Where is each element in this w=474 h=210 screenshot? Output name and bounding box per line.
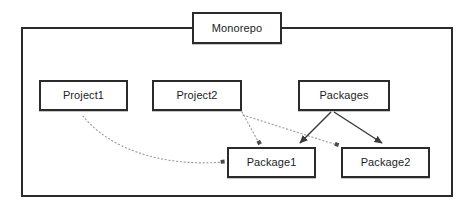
- node-monorepo[interactable]: Monorepo: [192, 12, 282, 44]
- node-packages[interactable]: Packages: [298, 80, 390, 111]
- node-package2-label: Package2: [361, 157, 411, 168]
- node-project2-label: Project2: [176, 90, 217, 101]
- node-package2[interactable]: Package2: [341, 147, 430, 178]
- node-package1-label: Package1: [247, 157, 297, 168]
- node-project2[interactable]: Project2: [152, 80, 242, 111]
- node-project1-label: Project1: [63, 90, 104, 101]
- node-package1[interactable]: Package1: [227, 147, 316, 178]
- node-packages-label: Packages: [319, 90, 368, 101]
- node-project1[interactable]: Project1: [39, 80, 128, 111]
- diagram-canvas: Monorepo Project1 Project2 Packages Pack…: [0, 0, 474, 210]
- node-monorepo-label: Monorepo: [212, 23, 262, 34]
